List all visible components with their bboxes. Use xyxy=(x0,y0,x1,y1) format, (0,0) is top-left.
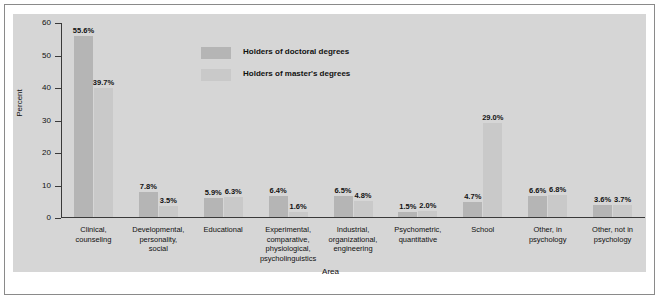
x-axis-line xyxy=(61,217,645,218)
bar-doctoral-7 xyxy=(528,196,547,217)
y-tick-label-20: 20 xyxy=(31,148,51,157)
y-tick-10 xyxy=(55,186,61,187)
bar-value-label-masters-5: 2.0% xyxy=(412,201,443,210)
y-tick-label-30: 30 xyxy=(31,116,51,125)
x-category-label-4: Industrial, organizational, engineering xyxy=(317,225,390,254)
legend-label-doctoral: Holders of doctoral degrees xyxy=(243,47,349,56)
bar-masters-2 xyxy=(224,197,243,217)
bar-value-label-masters-8: 3.7% xyxy=(607,195,638,204)
bar-masters-3 xyxy=(289,212,308,217)
bar-value-label-masters-0: 39.7% xyxy=(88,78,119,87)
bar-value-label-masters-2: 6.3% xyxy=(218,187,249,196)
x-category-label-1: Developmental, personality, social xyxy=(122,225,195,254)
bar-masters-1 xyxy=(159,206,178,217)
y-tick-40 xyxy=(55,88,61,89)
bar-masters-5 xyxy=(418,211,437,218)
y-tick-30 xyxy=(55,121,61,122)
bar-value-label-masters-3: 1.6% xyxy=(283,202,314,211)
bar-masters-4 xyxy=(354,201,373,217)
legend-swatch-masters-icon xyxy=(201,69,231,81)
bar-masters-0 xyxy=(94,88,113,217)
bar-doctoral-2 xyxy=(204,198,223,217)
legend-swatch-doctoral-icon xyxy=(201,47,231,59)
x-category-label-7: Other, in psychology xyxy=(511,225,584,244)
y-tick-label-40: 40 xyxy=(31,83,51,92)
bar-value-label-masters-6: 29.0% xyxy=(477,113,508,122)
chart-figure: Percent Area 0102030405060 55.6%39.7%7.8… xyxy=(4,4,655,295)
bar-value-label-doctoral-0: 55.6% xyxy=(68,26,99,35)
y-tick-label-10: 10 xyxy=(31,181,51,190)
x-axis-title: Area xyxy=(5,267,656,276)
plot-axes: 0102030405060 55.6%39.7%7.8%3.5%5.9%6.3%… xyxy=(61,23,645,218)
y-axis-line xyxy=(61,23,62,218)
y-tick-20 xyxy=(55,153,61,154)
y-tick-0 xyxy=(55,218,61,219)
bar-masters-6 xyxy=(483,123,502,217)
x-category-label-2: Educational xyxy=(187,225,260,235)
legend-label-masters: Holders of master's degrees xyxy=(243,69,350,78)
y-tick-label-60: 60 xyxy=(31,18,51,27)
y-tick-label-50: 50 xyxy=(31,51,51,60)
bar-masters-8 xyxy=(613,205,632,217)
x-category-label-5: Psychometric, quantitative xyxy=(381,225,454,244)
bar-value-label-masters-7: 6.8% xyxy=(542,185,573,194)
x-category-label-8: Other, not in psychology xyxy=(576,225,649,244)
bar-doctoral-8 xyxy=(593,205,612,217)
x-category-label-0: Clinical, counseling xyxy=(57,225,130,244)
y-tick-60 xyxy=(55,23,61,24)
x-category-label-3: Experimental, comparative, physiological… xyxy=(252,225,325,263)
bar-doctoral-5 xyxy=(398,212,417,217)
bar-masters-7 xyxy=(548,195,567,217)
x-category-label-6: School xyxy=(446,225,519,235)
bar-value-label-doctoral-1: 7.8% xyxy=(133,182,164,191)
y-tick-50 xyxy=(55,56,61,57)
bar-doctoral-0 xyxy=(74,36,93,217)
bar-value-label-masters-4: 4.8% xyxy=(348,191,379,200)
bar-value-label-doctoral-3: 6.4% xyxy=(263,186,294,195)
bar-value-label-masters-1: 3.5% xyxy=(153,196,184,205)
y-axis-title: Percent xyxy=(15,89,24,117)
bar-doctoral-6 xyxy=(463,202,482,217)
y-tick-label-0: 0 xyxy=(31,213,51,222)
